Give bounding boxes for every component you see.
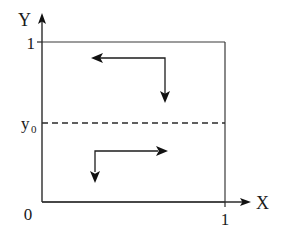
origin-label: 0 (24, 205, 33, 224)
threshold-label-subscript: 0 (31, 123, 37, 135)
phase-plane-diagram: Y X 1 1 0 y 0 (0, 0, 281, 240)
y-tick-label-one: 1 (27, 34, 36, 53)
upper-flow-path (100, 58, 165, 94)
lower-flow-path (95, 151, 158, 172)
figure-container: Y X 1 1 0 y 0 (0, 0, 281, 240)
y-axis-label: Y (18, 10, 31, 30)
x-axis-label: X (256, 193, 269, 213)
threshold-label: y (21, 114, 30, 133)
threshold-label-group: y 0 (21, 114, 37, 135)
lower-flow-down-arrowhead-icon (90, 171, 100, 183)
x-tick-label-one: 1 (221, 210, 230, 229)
